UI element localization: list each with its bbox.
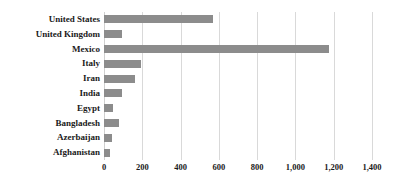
- y-axis-label: United States: [0, 12, 100, 27]
- bar[interactable]: [104, 75, 135, 83]
- bar-row[interactable]: [104, 56, 141, 71]
- bar[interactable]: [104, 149, 110, 157]
- bar[interactable]: [104, 30, 122, 38]
- x-axis-tick-label: 400: [174, 162, 187, 172]
- bar[interactable]: [104, 60, 141, 68]
- bar-row[interactable]: [104, 116, 119, 131]
- x-axis-tick-label: 0: [102, 162, 106, 172]
- bar-row[interactable]: [104, 101, 113, 116]
- y-axis-category-labels: United StatesUnited KingdomMexicoItalyIr…: [0, 12, 100, 160]
- y-axis-label: Azerbaijan: [0, 130, 100, 145]
- bars-layer: [104, 12, 372, 160]
- bar-row[interactable]: [104, 86, 122, 101]
- bar[interactable]: [104, 45, 329, 53]
- bar[interactable]: [104, 134, 112, 142]
- x-axis-tick-label: 1,000: [286, 162, 305, 172]
- x-axis-tick-labels: 02004006008001,0001,2001,400: [104, 162, 372, 178]
- x-axis-tick-label: 200: [136, 162, 149, 172]
- y-axis-label: Afghanistan: [0, 145, 100, 160]
- y-axis-label: Bangladesh: [0, 116, 100, 131]
- gridline-1400: [372, 12, 373, 160]
- plot-area: [104, 12, 372, 160]
- bar-row[interactable]: [104, 145, 110, 160]
- y-axis-label: Italy: [0, 56, 100, 71]
- bar-row[interactable]: [104, 130, 112, 145]
- bar[interactable]: [104, 15, 213, 23]
- x-axis-tick-label: 800: [251, 162, 264, 172]
- bar[interactable]: [104, 89, 122, 97]
- bar-row[interactable]: [104, 71, 135, 86]
- bar[interactable]: [104, 104, 113, 112]
- bar[interactable]: [104, 119, 119, 127]
- y-axis-label: Iran: [0, 71, 100, 86]
- bar-row[interactable]: [104, 27, 122, 42]
- bar-chart: United StatesUnited KingdomMexicoItalyIr…: [0, 0, 399, 192]
- x-axis-tick-label: 1,400: [362, 162, 381, 172]
- x-axis-tick-label: 1,200: [324, 162, 343, 172]
- y-axis-label: Mexico: [0, 42, 100, 57]
- y-axis-label: Egypt: [0, 101, 100, 116]
- bar-row[interactable]: [104, 12, 213, 27]
- bar-row[interactable]: [104, 42, 329, 57]
- y-axis-label: India: [0, 86, 100, 101]
- y-axis-label: United Kingdom: [0, 27, 100, 42]
- x-axis-tick-label: 600: [212, 162, 225, 172]
